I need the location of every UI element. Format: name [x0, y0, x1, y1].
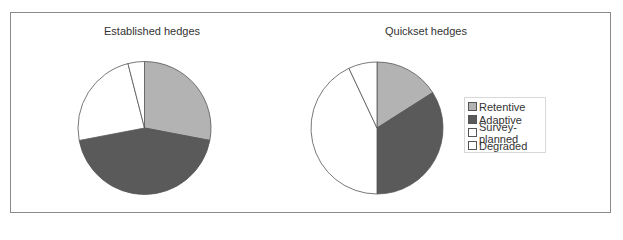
- chart-legend: Retentive Adaptive Survey-planned Degrad…: [464, 97, 546, 153]
- pie-slice-retentive: [145, 62, 212, 141]
- pie-slice-adaptive: [79, 128, 210, 195]
- legend-swatch-degraded: [468, 141, 477, 150]
- legend-item-survey-planned: Survey-planned: [468, 126, 542, 139]
- established-pie: [78, 62, 211, 195]
- legend-item-retentive: Retentive: [468, 100, 542, 113]
- legend-label: Retentive: [479, 101, 525, 113]
- legend-swatch-retentive: [468, 102, 477, 111]
- legend-swatch-adaptive: [468, 115, 477, 124]
- legend-label: Degraded: [479, 140, 527, 152]
- legend-swatch-survey-planned: [468, 128, 477, 137]
- quickset-pie: [311, 62, 443, 194]
